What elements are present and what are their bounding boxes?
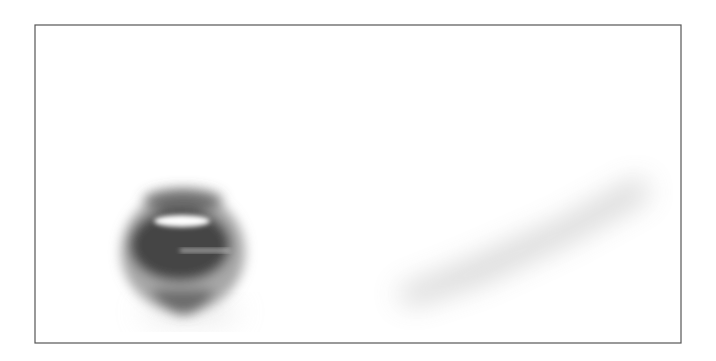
newtons-cradle-photo xyxy=(0,0,716,361)
moving-ball-highlight xyxy=(154,215,210,227)
moving-ball-streak xyxy=(180,249,230,252)
image-frame xyxy=(35,25,681,343)
